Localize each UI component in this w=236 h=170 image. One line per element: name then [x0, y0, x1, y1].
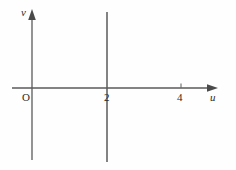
v-axis-arrowhead [28, 9, 36, 20]
u-tick-label-2: 2 [104, 92, 110, 103]
u-axis-label: u [210, 92, 216, 103]
plot-canvas [0, 0, 236, 170]
origin-label: O [22, 92, 30, 103]
coordinate-diagram: v u O 2 4 [0, 0, 236, 170]
u-tick-label-4: 4 [177, 92, 183, 103]
v-axis-label: v [21, 7, 26, 18]
